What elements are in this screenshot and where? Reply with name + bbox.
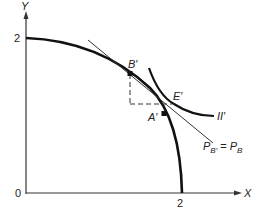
y-axis-label: Y [21,0,29,12]
indifference-label: II′ [217,110,226,122]
price-line [88,40,213,143]
b-prime-label: B′ [128,58,138,70]
y-axis-arrow-icon [24,11,29,19]
trade-diagram: Y 2 0 2 X B′ E′ A′ II′ PB′ = PB [0,0,262,216]
a-prime-label: A′ [147,111,158,123]
production-possibility-frontier [26,38,182,193]
point-b-prime [128,71,133,76]
price-line-label: PB′ = PB [203,140,243,155]
x-axis-label: X [243,187,252,199]
e-prime-label: E′ [173,90,183,102]
origin-label: 0 [15,187,21,199]
y-tick-label: 2 [14,32,20,44]
x-axis-arrow-icon [234,191,242,196]
point-a-prime [162,111,167,116]
x-tick-label: 2 [177,197,183,209]
